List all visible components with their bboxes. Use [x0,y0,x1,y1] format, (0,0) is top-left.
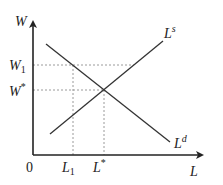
labor-market-diagram: W L 0 W1 W* L1 L* Ls Ld [0,0,223,185]
lstar-label: L* [92,157,106,175]
w1-label: W1 [9,58,26,75]
l1-label: L1 [61,160,75,177]
y-axis-label: W [15,14,28,29]
demand-curve [46,44,170,142]
x-axis-label: L [189,164,198,179]
supply-curve [50,41,163,134]
supply-label: Ls [163,23,176,41]
demand-label: Ld [173,133,188,151]
origin-label: 0 [26,160,33,175]
wstar-label: W* [9,81,26,99]
guide-lines [33,65,134,155]
